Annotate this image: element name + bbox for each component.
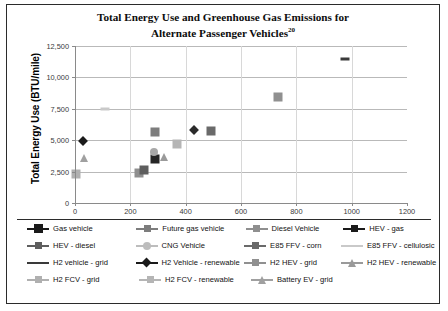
legend-item[interactable]: E85 FFV - cellulosic: [341, 241, 431, 251]
legend-item[interactable]: HEV - diesel: [17, 241, 136, 251]
legend-label: H2 HEV - grid: [270, 258, 317, 267]
legend-label: HEV - diesel: [53, 241, 95, 250]
data-point: [150, 148, 158, 156]
y-tick-label: 5,000: [9, 136, 69, 145]
x-tick-label: 600: [221, 207, 261, 216]
legend-item[interactable]: H2 FCV - grid: [17, 275, 139, 285]
plot-area: [75, 46, 407, 203]
data-point: [80, 154, 88, 162]
legend-marker-icon: [343, 224, 365, 234]
legend-marker-icon: [136, 241, 158, 251]
legend-marker-icon: [27, 224, 49, 234]
y-tick-label: 10,000: [9, 73, 69, 82]
x-tick-label: 1200: [387, 207, 427, 216]
data-point: [151, 155, 160, 164]
legend-row: H2 vehicle - gridH2 Vehicle - renewableH…: [17, 254, 431, 271]
legend-item[interactable]: CNG Vehicle: [136, 241, 245, 251]
x-tick-mark: [407, 203, 408, 206]
legend-item[interactable]: H2 HEV - grid: [244, 258, 341, 268]
chart-legend: Gas vehicleFuture gas vehicleDiesel Vehi…: [17, 219, 431, 298]
legend-label: H2 vehicle - grid: [53, 258, 108, 267]
chart-figure: Total Energy Use and Greenhouse Gas Emis…: [6, 4, 440, 304]
gridline-x: [241, 46, 242, 203]
legend-item[interactable]: Diesel Vehicle: [246, 224, 344, 234]
legend-label: CNG Vehicle: [162, 241, 205, 250]
legend-item[interactable]: Battery EV - grid: [251, 275, 351, 285]
data-point: [173, 139, 182, 148]
legend-label: Diesel Vehicle: [272, 224, 320, 233]
legend-label: H2 FCV - renewable: [165, 275, 234, 284]
legend-item[interactable]: HEV - gas: [343, 224, 431, 234]
legend-label: Future gas vehicle: [162, 224, 224, 233]
gridline-x: [130, 46, 131, 203]
y-tick-mark: [72, 77, 75, 78]
legend-label: H2 Vehicle - renewable: [162, 258, 240, 267]
legend-item[interactable]: H2 vehicle - grid: [17, 258, 136, 268]
legend-item[interactable]: E85 FFV - corn: [244, 241, 341, 251]
data-point: [206, 127, 215, 136]
legend-label: E85 FFV - corn: [270, 241, 321, 250]
legend-marker-icon: [244, 258, 266, 268]
gridline-x: [186, 46, 187, 203]
x-tick-label: 200: [110, 207, 150, 216]
x-tick-mark: [186, 203, 187, 206]
legend-label: E85 FFV - cellulosic: [367, 241, 435, 250]
data-point: [139, 166, 148, 175]
legend-marker-icon: [251, 275, 273, 285]
x-tick-label: 800: [276, 207, 316, 216]
data-point: [101, 108, 110, 111]
data-point: [340, 57, 349, 60]
legend-label: Battery EV - grid: [277, 275, 333, 284]
y-axis-line: [75, 46, 76, 204]
y-tick-label: 12,500: [9, 42, 69, 51]
chart-title-line1: Total Energy Use and Greenhouse Gas Emis…: [97, 11, 349, 23]
x-tick-mark: [75, 203, 76, 206]
y-tick-label: 2,500: [9, 168, 69, 177]
legend-marker-icon: [246, 224, 268, 234]
data-point: [78, 136, 88, 146]
x-tick-mark: [241, 203, 242, 206]
x-tick-mark: [130, 203, 131, 206]
legend-label: Gas vehicle: [53, 224, 93, 233]
data-point: [151, 128, 160, 137]
legend-marker-icon: [244, 241, 266, 251]
legend-item[interactable]: Gas vehicle: [17, 224, 136, 234]
x-tick-mark: [352, 203, 353, 206]
legend-label: H2 HEV - renewable: [367, 258, 436, 267]
legend-item[interactable]: H2 Vehicle - renewable: [136, 258, 245, 268]
data-point: [189, 125, 199, 135]
chart-title: Total Energy Use and Greenhouse Gas Emis…: [7, 11, 439, 40]
legend-item[interactable]: Future gas vehicle: [136, 224, 245, 234]
data-point: [274, 92, 283, 101]
legend-item[interactable]: H2 HEV - renewable: [341, 258, 431, 268]
gridline-x: [296, 46, 297, 203]
y-tick-mark: [72, 109, 75, 110]
x-tick-label: 0: [55, 207, 95, 216]
legend-row: Gas vehicleFuture gas vehicleDiesel Vehi…: [17, 220, 431, 237]
legend-label: HEV - gas: [369, 224, 404, 233]
legend-marker-icon: [136, 224, 158, 234]
y-tick-mark: [72, 140, 75, 141]
chart-title-line2: Alternate Passenger Vehicles: [151, 27, 288, 39]
legend-marker-icon: [27, 275, 49, 285]
x-tick-label: 1000: [332, 207, 372, 216]
gridline-x: [352, 46, 353, 203]
legend-row: H2 FCV - gridH2 FCV - renewableBattery E…: [17, 271, 431, 288]
legend-marker-icon: [136, 258, 158, 268]
legend-label: H2 FCV - grid: [53, 275, 99, 284]
x-tick-label: 400: [166, 207, 206, 216]
legend-marker-icon: [341, 241, 363, 251]
legend-row: HEV - dieselCNG VehicleE85 FFV - cornE85…: [17, 237, 431, 254]
data-point: [160, 153, 168, 161]
y-tick-mark: [72, 46, 75, 47]
legend-marker-icon: [139, 275, 161, 285]
legend-marker-icon: [341, 258, 363, 268]
chart-title-footnote: 20: [288, 26, 295, 34]
legend-marker-icon: [27, 241, 49, 251]
x-tick-mark: [296, 203, 297, 206]
y-tick-label: 7,500: [9, 105, 69, 114]
legend-marker-icon: [27, 258, 49, 268]
legend-item[interactable]: H2 FCV - renewable: [139, 275, 251, 285]
y-tick-mark: [72, 172, 75, 173]
